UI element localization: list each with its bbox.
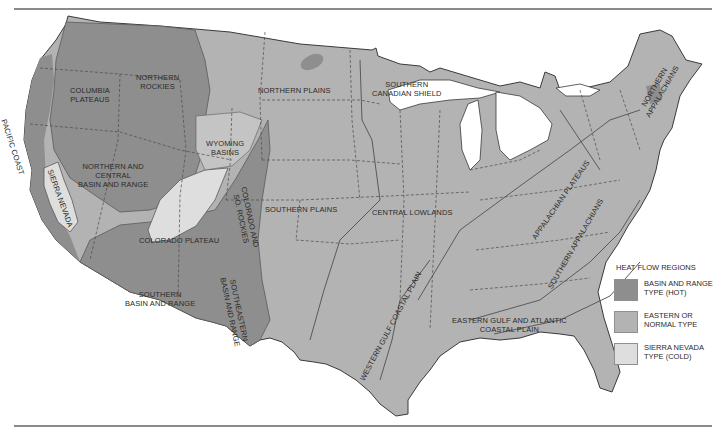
legend-label-hot: BASIN AND RANGE TYPE (HOT) <box>644 279 713 297</box>
label-colorado-plateau: COLORADO PLATEAU <box>139 236 219 245</box>
legend-item-hot: BASIN AND RANGE TYPE (HOT) <box>612 277 718 305</box>
bottom-rule <box>14 425 712 427</box>
label-columbia-plateaus: COLUMBIA PLATEAUS <box>70 86 110 104</box>
label-southern-basin-range: SOUTHERN BASIN AND RANGE <box>125 290 195 308</box>
legend-label-normal: EASTERN OR NORMAL TYPE <box>644 311 697 329</box>
legend-label-cold: SIERRA NEVADA TYPE (COLD) <box>644 343 704 361</box>
legend: HEAT FLOW REGIONS BASIN AND RANGE TYPE (… <box>612 263 718 373</box>
label-northern-plains: NORTHERN PLAINS <box>258 86 331 95</box>
label-wyoming-basins: WYOMING BASINS <box>206 139 244 157</box>
label-northern-rockies: NORTHERN ROCKIES <box>136 73 179 91</box>
label-southern-canadian-shield: SOUTHERN CANADIAN SHIELD <box>372 80 441 98</box>
legend-item-cold: SIERRA NEVADA TYPE (COLD) <box>612 341 718 369</box>
legend-title: HEAT FLOW REGIONS <box>616 263 718 272</box>
label-southern-plains: SOUTHERN PLAINS <box>265 205 337 214</box>
legend-swatch-cold <box>614 343 638 365</box>
label-eastern-gulf-atlantic-coastal-plain: EASTERN GULF AND ATLANTIC COASTAL PLAIN <box>452 316 567 334</box>
legend-item-normal: EASTERN OR NORMAL TYPE <box>612 309 718 337</box>
us-heat-flow-map <box>0 0 718 439</box>
label-northern-central-basin-range: NORTHERN AND CENTRAL BASIN AND RANGE <box>78 162 148 189</box>
legend-swatch-normal <box>614 311 638 333</box>
legend-swatch-hot <box>614 279 638 301</box>
label-central-lowlands: CENTRAL LOWLANDS <box>372 208 453 217</box>
